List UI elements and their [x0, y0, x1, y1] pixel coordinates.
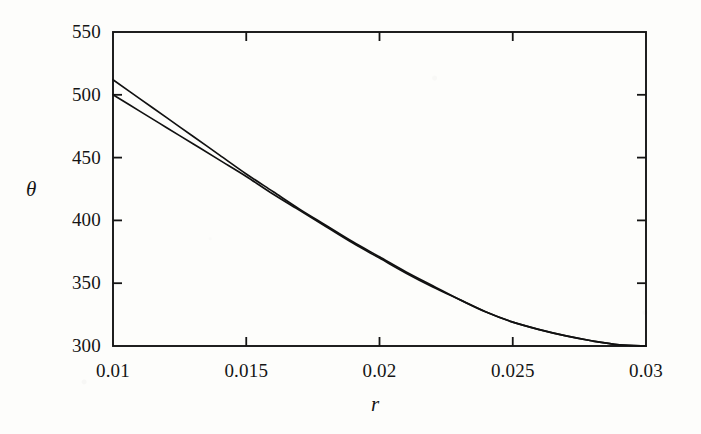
plot-frame-rect: [113, 32, 646, 346]
y-tick-label: 400: [72, 209, 101, 231]
y-axis-title: θ: [26, 177, 36, 202]
x-axis-ticks: [246, 32, 513, 346]
y-tick-label: 550: [72, 21, 101, 43]
series-line-lower-curve: [113, 95, 646, 346]
y-tick-label: 500: [72, 84, 101, 106]
x-axis-title: r: [371, 392, 379, 417]
x-tick-label: 0.03: [629, 360, 663, 382]
x-tick-label: 0.01: [96, 360, 130, 382]
data-series-group: [113, 80, 646, 346]
x-tick-label: 0.025: [491, 360, 535, 382]
y-tick-label: 350: [72, 272, 101, 294]
x-tick-label: 0.02: [362, 360, 396, 382]
y-tick-label: 450: [72, 147, 101, 169]
y-axis-ticks: [113, 95, 646, 283]
chart-page: 300350400450500550 0.010.0150.020.0250.0…: [0, 0, 701, 434]
series-line-upper-curve: [113, 80, 646, 346]
y-tick-label: 300: [72, 335, 101, 357]
plot-frame: [113, 32, 646, 346]
x-tick-label: 0.015: [224, 360, 268, 382]
